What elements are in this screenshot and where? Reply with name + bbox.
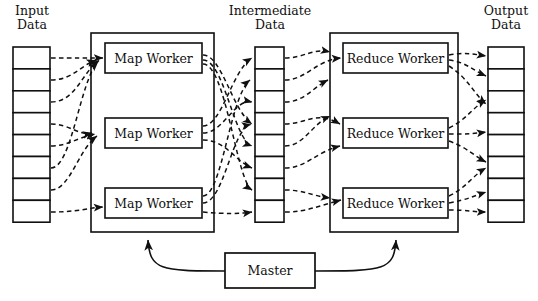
input-data-label-line2: Data xyxy=(2,18,62,32)
map-worker-2-label[interactable]: Map Worker xyxy=(105,118,202,148)
intermediate-data-column xyxy=(255,47,284,222)
output-data-label-line2: Data xyxy=(476,18,536,32)
map-worker-3-label[interactable]: Map Worker xyxy=(105,188,202,218)
master-label[interactable]: Master xyxy=(225,253,315,288)
input-data-label-line1: Input xyxy=(2,4,62,18)
mapreduce-diagram: Input Data Intermediate Data Output Data… xyxy=(0,0,538,301)
reduce-worker-2-label[interactable]: Reduce Worker xyxy=(343,118,448,148)
input-data-column xyxy=(13,47,50,222)
intermediate-data-label-line2: Data xyxy=(215,18,325,32)
output-data-column xyxy=(488,47,524,222)
intermediate-data-label-line1: Intermediate xyxy=(215,4,325,18)
reduce-worker-1-label[interactable]: Reduce Worker xyxy=(343,43,448,73)
edges-input-to-map xyxy=(51,58,103,212)
edges-reduce-to-output xyxy=(449,53,486,212)
input-data-label: Input Data xyxy=(2,4,62,32)
intermediate-data-label: Intermediate Data xyxy=(215,4,325,32)
edges-intermediate-to-reduce xyxy=(285,51,341,212)
output-data-label-line1: Output xyxy=(476,4,536,18)
reduce-worker-3-label[interactable]: Reduce Worker xyxy=(343,188,448,218)
map-worker-1-label[interactable]: Map Worker xyxy=(105,43,202,73)
output-data-label: Output Data xyxy=(476,4,536,32)
edges-map-to-intermediate xyxy=(203,55,252,214)
